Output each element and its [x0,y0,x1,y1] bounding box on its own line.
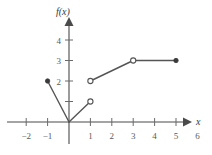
x-tick-label-2: 2 [110,131,115,141]
segment-upper-sloped-branch [90,61,133,82]
x-tick-label-4: 4 [152,131,157,141]
marker-closed-neg1-2 [45,79,49,83]
marker-open-1-1 [88,99,93,104]
y-tick-label-3: 3 [57,56,62,66]
function-graph-figure: −2 −1 1 2 3 4 5 6 2 3 4 f(x) x [0,0,212,155]
y-axis-label: f(x) [56,6,71,18]
plot-canvas: −2 −1 1 2 3 4 5 6 2 3 4 f(x) x [0,0,212,155]
y-tick-label-2: 2 [57,77,62,87]
x-axis-label: x [195,116,201,127]
x-tick-label-neg2: −2 [21,131,31,141]
curve-segments-group [48,61,176,123]
marker-open-3-3 [131,58,136,63]
segment-ascending-branch [69,102,90,123]
x-tick-label-5: 5 [174,131,179,141]
y-tick-label-4: 4 [57,36,62,46]
x-tick-label-6: 6 [195,131,200,141]
x-tick-labels-group: −2 −1 1 2 3 4 5 6 [21,131,200,141]
x-tick-label-3: 3 [131,131,136,141]
y-axis-arrow-icon [65,17,74,26]
marker-closed-5-3 [174,58,178,62]
y-tick-labels-group: 2 3 4 [57,36,62,87]
axes-group [7,17,192,144]
x-axis-arrow-icon [183,118,192,127]
x-tick-label-neg1: −1 [43,131,53,141]
marker-open-1-2 [88,78,93,83]
x-tick-label-1: 1 [88,131,93,141]
